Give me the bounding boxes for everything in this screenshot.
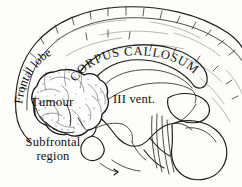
label-subfrontal-region: Subfrontal region bbox=[13, 136, 93, 163]
label-subfrontal-line2: region bbox=[36, 149, 69, 163]
brainstem bbox=[144, 114, 174, 174]
midbrain-region bbox=[168, 94, 210, 123]
label-tumour: Tumour bbox=[31, 94, 74, 110]
cerebellum bbox=[172, 121, 227, 180]
label-third-ventricle: III vent. bbox=[113, 92, 155, 107]
brain-sagittal-diagram: Frontal lobe CORPUS CALLOSUM Tumour III … bbox=[0, 0, 242, 187]
label-subfrontal-line1: Subfrontal bbox=[26, 135, 81, 149]
